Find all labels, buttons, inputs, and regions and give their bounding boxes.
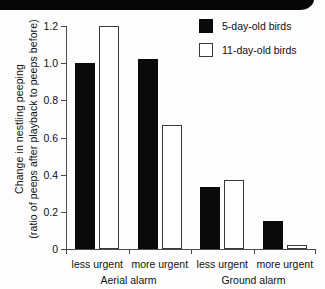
x-axis-category-label: less urgent: [72, 258, 123, 270]
chart-figure: Change in nestling peeping (ratio of pee…: [0, 0, 325, 289]
legend-label: 5-day-old birds: [222, 20, 291, 32]
x-axis-category-label: less urgent: [197, 258, 248, 270]
x-axis-tick: [254, 249, 255, 254]
y-axis-tick: 0.6: [61, 138, 66, 139]
x-axis-tick: [191, 249, 192, 254]
y-axis-tick-label: 1.2: [43, 20, 58, 32]
legend-swatch-open-icon: [199, 43, 213, 57]
x-axis-tick: [129, 249, 130, 254]
bar: [263, 221, 283, 249]
bar: [287, 245, 307, 249]
chart-legend: 5-day-old birds 11-day-old birds: [199, 18, 297, 66]
legend-item-11-day-old-birds: 11-day-old birds: [199, 42, 297, 58]
bar: [138, 59, 158, 249]
y-axis-title-line-1: Change in nestling peeping: [13, 4, 25, 254]
x-axis-tick: [315, 249, 316, 254]
y-axis-title-line-2: (ratio of peeps after playback to peeps …: [27, 4, 39, 254]
x-axis-group-label: Aerial alarm: [100, 274, 156, 286]
y-axis-line: [66, 26, 67, 249]
bar: [224, 180, 244, 249]
bar: [162, 125, 182, 250]
y-axis-tick-label: 0.8: [43, 94, 58, 106]
bar: [200, 187, 220, 249]
y-axis-tick: 1.2: [61, 26, 66, 27]
y-axis-tick-label: 0.2: [43, 206, 58, 218]
y-axis-tick: 1.0: [61, 63, 66, 64]
legend-swatch-filled-icon: [199, 19, 213, 33]
y-axis-tick: 0.2: [61, 212, 66, 213]
scan-artifact-band: [0, 0, 314, 10]
y-axis-tick-label: 0.6: [43, 132, 58, 144]
y-axis-tick-label: 1.0: [43, 57, 58, 69]
x-axis-group-label: Ground alarm: [221, 274, 285, 286]
bar: [75, 63, 95, 249]
y-axis-title: Change in nestling peeping (ratio of pee…: [0, 0, 42, 260]
y-axis-tick: 0.8: [61, 100, 66, 101]
bar: [99, 26, 119, 249]
y-axis-tick-label: 0: [52, 243, 58, 255]
x-axis-category-label: more urgent: [256, 258, 313, 270]
legend-item-5-day-old-birds: 5-day-old birds: [199, 18, 297, 34]
y-axis-tick: 0.4: [61, 175, 66, 176]
y-axis-tick-label: 0.4: [43, 169, 58, 181]
x-axis-category-label: more urgent: [131, 258, 188, 270]
x-axis-tick: [66, 249, 67, 254]
legend-label: 11-day-old birds: [222, 44, 297, 56]
